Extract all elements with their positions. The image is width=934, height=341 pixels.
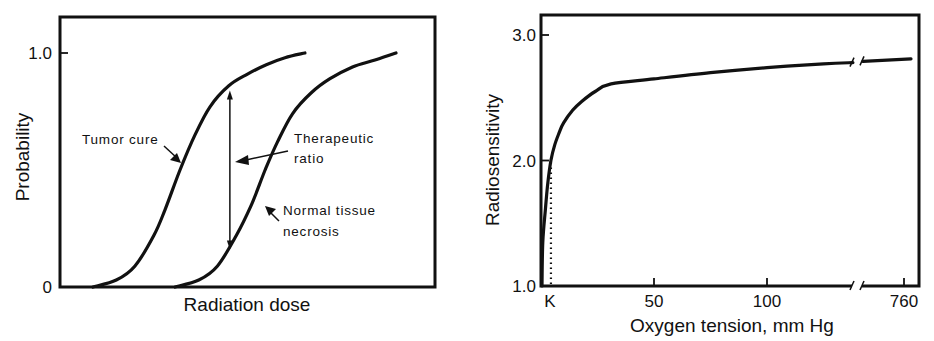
left-y-tick-label: 1.0 (28, 44, 52, 63)
right-y-tick-label: 2.0 (512, 152, 536, 171)
right-curves (542, 56, 911, 286)
right-y-tick-label: 3.0 (512, 26, 536, 45)
right-frame-outline (541, 15, 919, 286)
right-plot-frame (541, 15, 919, 290)
right-x-axis-title: Oxygen tension, mm Hg (630, 315, 834, 336)
right-x-tick-label: K (544, 292, 556, 311)
annotation-normal-tissue-line1: Normal tissue (283, 203, 376, 218)
radiosensitivity-curve (542, 63, 853, 286)
figure: 01.0 Tumor cure Therapeutic ratio Normal… (0, 0, 934, 341)
left-y-ticks: 01.0 (28, 44, 68, 297)
right-x-tick-label: 100 (753, 292, 781, 311)
right-y-axis-title: Radiosensitivity (482, 94, 503, 226)
left-y-tick-label: 0 (43, 278, 52, 297)
right-y-tick-label: 1.0 (512, 277, 536, 296)
right-x-tick-label: 50 (645, 292, 664, 311)
left-x-axis-title: Radiation dose (184, 294, 311, 315)
ratio-arrow-up-icon (227, 90, 233, 99)
left-chart-panel: 01.0 Tumor cure Therapeutic ratio Normal… (12, 17, 435, 315)
annotation-normal-tissue-line2: necrosis (283, 224, 340, 239)
tumor-cure-curve (93, 53, 305, 287)
right-x-tick-label: 760 (890, 292, 918, 311)
annotation-therapeutic-ratio-line2: ratio (294, 151, 324, 166)
left-curves (93, 53, 396, 287)
normal-tissue-arrowhead-icon (265, 206, 276, 216)
normal-tissue-necrosis-curve (175, 53, 396, 287)
left-y-axis-title: Probability (12, 112, 33, 201)
therapeutic-ratio-double-arrow (227, 90, 233, 249)
therapeutic-ratio-pointer-shaft (246, 151, 288, 160)
annotation-therapeutic-ratio-line1: Therapeutic (294, 131, 374, 146)
tumor-cure-arrowhead-icon (170, 153, 181, 163)
annotation-tumor-cure: Tumor cure (82, 132, 159, 147)
radiosensitivity-curve-after-break (863, 59, 911, 62)
therapeutic-ratio-arrowhead-icon (235, 155, 249, 165)
right-chart-panel: 1.02.03.0 K50100760 Oxygen tension, mm H… (482, 15, 919, 336)
right-x-ticks: K50100760 (544, 278, 918, 311)
